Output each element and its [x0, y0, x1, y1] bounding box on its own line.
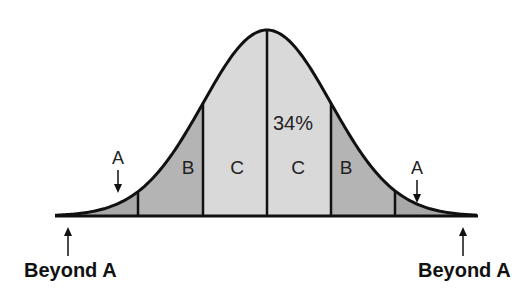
label-c-right: C: [291, 157, 305, 178]
arrow-down-icon: [114, 184, 122, 193]
label-a-right: A: [411, 158, 423, 178]
label-b-right: B: [340, 157, 353, 178]
region-a-right-tail: [395, 0, 495, 217]
label-b-left: B: [182, 157, 195, 178]
label-a-left: A: [112, 148, 124, 168]
arrow-up-icon: [64, 227, 72, 236]
label-c-left: C: [230, 157, 244, 178]
region-a-left-tail: [40, 0, 138, 217]
beyond-a-right-label: Beyond A: [418, 259, 511, 281]
percent-label: 34%: [273, 112, 313, 134]
normal-curve-diagram: A B C C B 34% A Beyond A Beyond A: [0, 0, 530, 301]
arrow-up-icon: [459, 227, 467, 236]
beyond-a-left-label: Beyond A: [24, 259, 117, 281]
